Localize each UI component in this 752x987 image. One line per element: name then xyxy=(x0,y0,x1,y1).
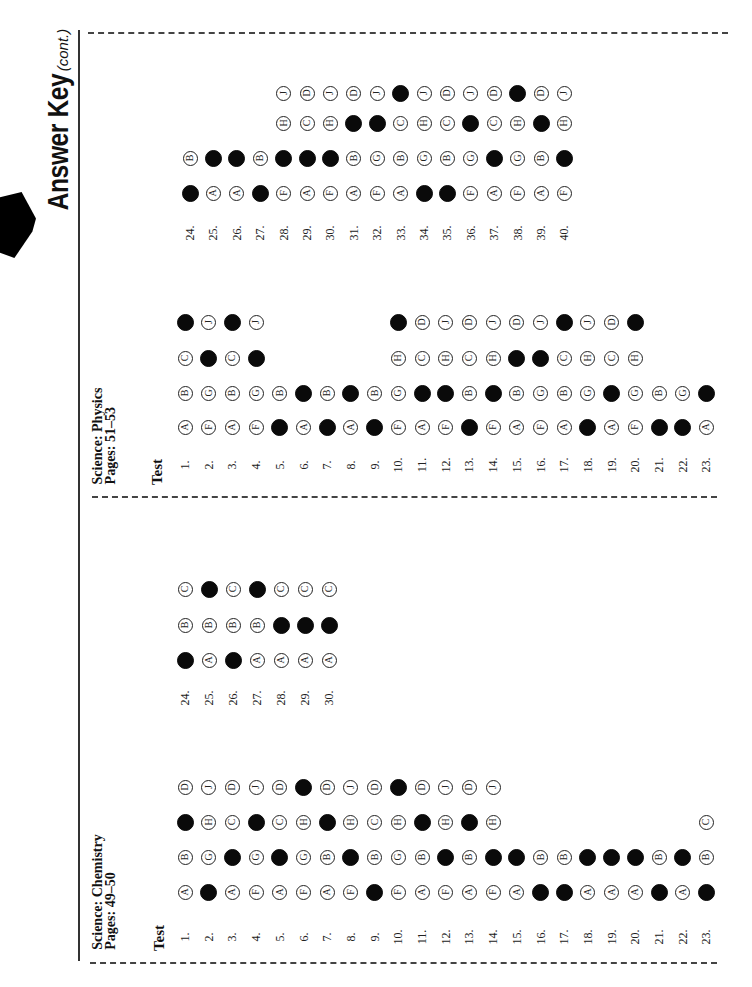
bubble-letter: G xyxy=(372,154,382,161)
question-number: 17. xyxy=(557,930,572,945)
answer-bubble: A xyxy=(557,420,572,435)
bubble-letter: F xyxy=(559,190,569,196)
answer-bubble: F xyxy=(438,420,453,435)
bubble-letter: J xyxy=(279,91,289,95)
answer-bubble-filled: B xyxy=(627,849,644,866)
answer-bubble: J xyxy=(323,86,338,101)
answer-bubble-filled: J xyxy=(295,779,312,796)
answer-bubble-filled: B xyxy=(342,385,359,402)
bubble-letter: B xyxy=(228,622,238,629)
answer-bubble-filled: F xyxy=(416,185,433,202)
bubble-letter: J xyxy=(251,785,261,789)
answer-bubble-filled: J xyxy=(627,314,644,331)
answer-bubble-filled: J xyxy=(390,779,407,796)
bubble-letter: G xyxy=(299,853,309,860)
answer-bubble: F xyxy=(463,186,478,201)
bubble-letter: J xyxy=(488,320,498,324)
answer-bubble: D xyxy=(320,780,335,795)
bubble-letter: C xyxy=(324,586,334,593)
answer-bubble: F xyxy=(249,885,264,900)
question-number: 33. xyxy=(393,226,408,241)
answer-bubble-filled: A xyxy=(225,652,242,669)
bubble-letter: A xyxy=(512,423,522,430)
answer-bubble: A xyxy=(580,885,595,900)
bubble-letter: B xyxy=(255,155,265,162)
question-number: 14. xyxy=(486,930,501,945)
question-number: 16. xyxy=(533,930,548,945)
answer-bubble: C xyxy=(300,116,315,131)
bubble-letter: A xyxy=(252,656,262,663)
bubble-letter: J xyxy=(583,320,593,324)
question-number: 27. xyxy=(253,226,268,241)
answer-bubble: G xyxy=(463,151,478,166)
bubble-letter: J xyxy=(441,785,451,789)
answer-bubble-filled: B xyxy=(486,150,503,167)
bubble-letter: J xyxy=(466,91,476,95)
answer-bubble: B xyxy=(462,386,477,401)
answer-bubble: B xyxy=(253,151,268,166)
answer-bubble: A xyxy=(178,420,193,435)
answer-bubble: C xyxy=(557,351,572,366)
bubble-letter: B xyxy=(417,854,427,861)
bubble-letter: A xyxy=(417,423,427,430)
bubble-letter: H xyxy=(393,354,403,361)
answer-bubble: A xyxy=(346,186,361,201)
question-number: 27. xyxy=(250,691,265,706)
bubble-letter: B xyxy=(252,622,262,629)
bubble-letter: D xyxy=(322,783,332,790)
bubble-letter: F xyxy=(393,424,403,430)
bubble-letter: A xyxy=(227,423,237,430)
answer-bubble-filled: G xyxy=(485,385,502,402)
bubble-letter: A xyxy=(678,888,688,895)
question-number: 19. xyxy=(604,458,619,473)
bubble-letter: G xyxy=(536,389,546,396)
bubble-letter: F xyxy=(536,424,546,430)
bubble-letter: F xyxy=(488,424,498,430)
answer-bubble: G xyxy=(417,151,432,166)
answer-bubble: A xyxy=(675,885,690,900)
answer-bubble: A xyxy=(628,885,643,900)
answer-bubble: F xyxy=(201,420,216,435)
answer-bubble: J xyxy=(557,86,572,101)
bubble-letter: D xyxy=(227,783,237,790)
answer-bubble: F xyxy=(323,186,338,201)
bubble-letter: F xyxy=(251,889,261,895)
answer-bubble: B xyxy=(534,151,549,166)
answer-bubble: C xyxy=(225,351,240,366)
bubble-letter: C xyxy=(559,355,569,362)
answer-bubble: B xyxy=(557,386,572,401)
answer-bubble: G xyxy=(201,850,216,865)
answer-bubble-filled: B xyxy=(674,849,691,866)
question-number: 6. xyxy=(296,461,311,470)
answer-bubble: H xyxy=(628,351,643,366)
answer-bubble: G xyxy=(675,386,690,401)
bubble-letter: B xyxy=(559,390,569,397)
answer-bubble-filled: A xyxy=(319,419,336,436)
bubble-letter: B xyxy=(370,854,380,861)
answer-bubble: B xyxy=(202,618,217,633)
answer-bubble: F xyxy=(438,885,453,900)
question-number: 5. xyxy=(272,933,287,942)
question-number: 28. xyxy=(276,226,291,241)
bubble-letter: A xyxy=(536,189,546,196)
answer-bubble: G xyxy=(370,151,385,166)
answer-bubble: C xyxy=(225,815,240,830)
answer-bubble: C xyxy=(178,351,193,366)
answer-bubble-filled: B xyxy=(579,849,596,866)
answer-bubble: G xyxy=(201,386,216,401)
bubble-letter: B xyxy=(275,390,285,397)
answer-bubble: D xyxy=(300,86,315,101)
answer-bubble-filled: H xyxy=(532,350,549,367)
answer-bubble: B xyxy=(440,151,455,166)
bubble-letter: A xyxy=(227,888,237,895)
answer-bubble: C xyxy=(226,582,241,597)
question-number: 12. xyxy=(438,930,453,945)
answer-bubble-filled: G xyxy=(437,385,454,402)
bubble-letter: H xyxy=(488,818,498,825)
answer-bubble: A xyxy=(298,653,313,668)
answer-bubble: A xyxy=(393,186,408,201)
answer-bubble: A xyxy=(509,885,524,900)
answer-bubble-filled: B xyxy=(273,617,290,634)
vertical-rule xyxy=(78,30,80,961)
answer-bubble-filled: A xyxy=(177,652,194,669)
